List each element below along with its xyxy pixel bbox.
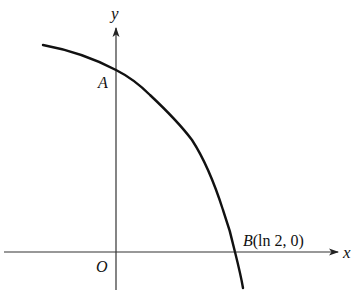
point-a-label: A [97,74,108,91]
origin-label: O [96,258,108,275]
function-graph: y x O A B(ln 2, 0) [0,0,358,298]
point-b-coords: (ln 2, 0) [253,232,304,250]
point-b-label: B(ln 2, 0) [243,232,304,250]
x-axis-label: x [342,243,351,262]
y-axis-label: y [109,4,119,23]
point-b-letter: B [243,232,253,249]
